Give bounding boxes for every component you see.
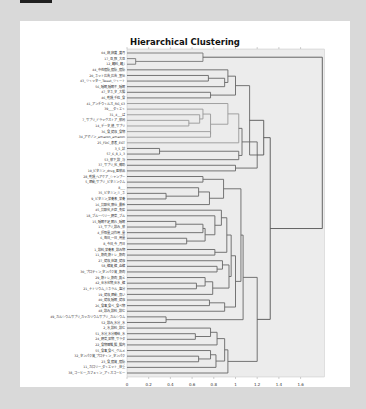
leaf-label: 39___ダイエイ xyxy=(104,106,125,111)
leaf-label: 8_今日_今_月日 xyxy=(103,241,125,246)
leaf-label: 36_食_健康_食物 xyxy=(101,129,126,134)
leaf-label: 4_摂取量_副作用_量 xyxy=(97,230,126,235)
leaf-label: 6_毎日_一日_用量 xyxy=(100,235,126,240)
leaf-label: 2_水_飲料_飲む xyxy=(103,325,125,330)
leaf-label: 38_コーヒー_カフェイン_アイスコーヒー xyxy=(68,370,125,375)
leaf-label: 30_プロテイン_タンパク質_筋肉 xyxy=(80,269,125,274)
leaf-label: 32_タンパク質_プロテイン_タンパク xyxy=(74,353,125,358)
leaf-label: 42_炭水化物_炭水_糖 xyxy=(95,280,126,285)
leaf-label: 25_FDC_患者_EGT xyxy=(97,140,125,145)
chart-card: Hierarchical Clustering 00.20.40.60.811.… xyxy=(20,21,350,387)
dendrogram-plot: 00.20.40.60.811.21.41.604_卵_卵黄_黄月17_豆_豚_… xyxy=(20,21,350,387)
leaf-label: 26_食事_食べ_食べ物 xyxy=(95,303,126,308)
leaf-label: 37_サプリ_化_補助 xyxy=(98,162,125,167)
leaf-label: 7_サプリ_ドラッグストア_薬局 xyxy=(82,117,125,122)
leaf-label: 21_ナトリウム_ミネラル_塩分 xyxy=(83,286,126,291)
leaf-label: 51_水分_水分補給_水 xyxy=(95,331,126,336)
x-tick-label: 0.4 xyxy=(167,382,174,387)
leaf-label: 22_食物繊維_腸_腸内 xyxy=(95,342,125,347)
leaf-label: 24_野菜_果物_サラダ xyxy=(95,336,126,341)
leaf-label: 34_アマゾン_amazon_amazon xyxy=(79,134,125,139)
leaf-label: 31_4___ぱ xyxy=(110,112,126,117)
leaf-label: 27_健康_体調_健康 xyxy=(98,258,126,263)
leaf-label: 11_筋肉_筋トレ_筋肉 xyxy=(95,252,125,257)
leaf-label: 52_飲み_水分_水 xyxy=(101,320,126,325)
leaf-label: 15_睡眠不足_眠れ_睡眠 xyxy=(92,219,126,224)
x-tick-label: 0.2 xyxy=(146,382,153,387)
leaf-label: 9_ビタミン_栄養素_栄養 xyxy=(91,196,126,201)
leaf-label: 14_データ_値_サプリ xyxy=(95,123,125,128)
leaf-label: 17_豆_豚_大豆 xyxy=(104,56,125,61)
leaf-label: 11_カロリー_ダイエット_体重 xyxy=(83,364,126,369)
leaf-label: 44_中性脂肪_脂肪_脂肪 xyxy=(92,67,126,72)
leaf-label: 3_5_試 xyxy=(115,146,126,151)
x-tick-label: 1.4 xyxy=(276,382,283,387)
x-tick-label: 0 xyxy=(126,382,129,387)
leaf-label: 45_抗酸化_炎症_免疫 xyxy=(95,207,126,212)
top-bar xyxy=(20,0,52,3)
leaf-label: 23_食_脂質_脂肪 xyxy=(101,359,126,364)
leaf-label: 47_タネ_タ_大腸 xyxy=(101,89,126,94)
x-tick-label: 1.2 xyxy=(254,382,261,387)
leaf-label: 10_ビタミン_drug_医薬品 xyxy=(88,168,125,173)
leaf-label: 46_乾燥_千粒_食 xyxy=(101,95,126,100)
leaf-label: 40_健康_睡眠_健康 xyxy=(98,297,126,302)
leaf-label: 13_サプリ_飲み_薬 xyxy=(98,224,126,229)
x-tick-label: 0.8 xyxy=(211,382,218,387)
leaf-label: 5_運動_サプリ_ビタミンクム xyxy=(85,179,125,184)
leaf-label: 29_筋トレ_筋肉_鍛え xyxy=(95,275,125,280)
leaf-label: 04_卵_卵黄_黄月 xyxy=(101,50,125,55)
leaf-label: 48_飲み_飲料_飲む xyxy=(98,308,125,313)
x-tick-label: 1 xyxy=(234,382,237,387)
leaf-label: 43_ツイッター_Tweet_ツイート xyxy=(80,78,125,83)
leaf-label: 57_6_8_1_3 xyxy=(106,152,125,156)
leaf-label: 19_健康_運動_良い xyxy=(98,292,125,297)
leaf-label: 53_薬下_飲_与 xyxy=(104,157,125,162)
x-tick-label: 1.6 xyxy=(297,382,304,387)
leaf-label: 41_アンチウイルス_RG_63 xyxy=(86,101,125,106)
leaf-label: 35_ビタミン_ミ_ネ xyxy=(98,190,125,195)
leaf-label: 18_ブルーベリー_野菜_ブル xyxy=(86,213,126,218)
leaf-label: 58_糖質_糖_血糖 xyxy=(101,263,126,268)
leaf-label: 16_抗酸化_療仕_最新 xyxy=(95,202,126,207)
leaf-label: 49_カルシウムサプリ_カッカリウムサプリ_カルシウム xyxy=(50,314,125,319)
leaf-label: 12_麺料_麺_i xyxy=(106,61,125,66)
x-tick-label: 0.6 xyxy=(189,382,196,387)
leaf-label: 28_乾燥_ヘアケア_シャンプー xyxy=(83,174,125,179)
leaf-label: 1_飲料_栄養素_飲み物 xyxy=(94,247,126,252)
leaf-label: 20_ネット広告_広告_宣伝 xyxy=(89,73,126,78)
leaf-label: 56_睡眠_睡眠不_睡眠 xyxy=(95,84,126,89)
leaf-label: 55_食事_食べ_グルメ xyxy=(95,348,125,353)
leaf-label: 8___ xyxy=(118,186,125,190)
